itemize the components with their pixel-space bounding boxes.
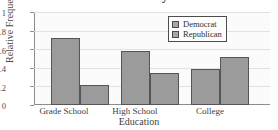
legend-item-republican: Republican <box>172 29 222 39</box>
y-tick-label: 0.8 <box>0 27 6 37</box>
chart-figure: Political Affiliation by Education Relat… <box>0 0 278 130</box>
bar-group <box>34 12 270 105</box>
y-tick-label: 0.6 <box>0 46 6 56</box>
bar-grade-school-democrat <box>51 38 80 105</box>
bar-college-republican <box>220 57 249 105</box>
chart-title: Political Affiliation by Education <box>0 0 278 4</box>
legend-swatch-icon <box>172 31 179 38</box>
bar-grade-school-republican <box>80 85 109 105</box>
x-tick-label-college: College <box>160 106 260 116</box>
y-tick-label: 0.4 <box>0 64 6 74</box>
legend-item-democrat: Democrat <box>172 19 222 29</box>
legend-label: Democrat <box>183 19 217 29</box>
legend-label: Republican <box>183 29 222 39</box>
y-tick-label: 1 <box>0 8 6 18</box>
bar-high-school-democrat <box>121 51 150 104</box>
bar-college-democrat <box>191 69 220 105</box>
legend-swatch-icon <box>172 21 179 28</box>
bar-high-school-republican <box>150 73 179 105</box>
y-tick-label: 0.2 <box>0 83 6 93</box>
legend: Democrat Republican <box>168 16 227 42</box>
x-axis-label: Education <box>0 116 278 127</box>
y-tick-label: 0 <box>0 101 6 111</box>
